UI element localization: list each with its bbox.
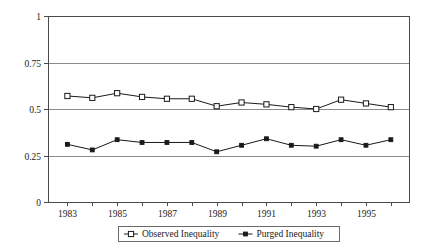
data-point-marker (165, 141, 169, 145)
data-point-marker (215, 150, 219, 154)
data-point-marker (389, 138, 393, 142)
y-tick-label: 1 (36, 12, 41, 22)
legend-marker (128, 231, 133, 236)
data-point-marker (66, 142, 70, 146)
data-point-marker (140, 141, 144, 145)
data-point-marker (338, 97, 343, 102)
data-point-marker (240, 143, 244, 147)
legend-item-label: Observed Inequality (142, 229, 220, 239)
data-point-marker (164, 96, 169, 101)
chart-legend: Observed InequalityPurged Inequality (119, 227, 340, 242)
y-tick-label: 0 (36, 198, 41, 208)
data-point-marker (90, 95, 95, 100)
data-point-marker (214, 104, 219, 109)
data-point-marker (339, 138, 343, 142)
data-point-marker (289, 143, 293, 147)
data-point-marker (314, 144, 318, 148)
data-point-marker (190, 141, 194, 145)
data-point-marker (65, 93, 70, 98)
y-tick-label: 0.75 (24, 59, 41, 69)
data-point-marker (139, 94, 144, 99)
x-tick-label: 1987 (158, 209, 177, 219)
x-tick-label: 1995 (357, 209, 376, 219)
data-point-marker (289, 105, 294, 110)
x-axis-ticks: 1983198519871989199119931995 (58, 202, 392, 219)
data-point-marker (364, 143, 368, 147)
x-tick-label: 1983 (58, 209, 77, 219)
x-tick-label: 1989 (208, 209, 227, 219)
y-axis-ticks: 00.250.50.751 (24, 12, 48, 208)
data-point-marker (115, 138, 119, 142)
data-point-marker (363, 101, 368, 106)
data-point-marker (314, 106, 319, 111)
x-tick-label: 1993 (307, 209, 326, 219)
data-point-marker (239, 100, 244, 105)
y-tick-label: 0.25 (24, 152, 41, 162)
data-point-marker (388, 105, 393, 110)
chart-container: 00.250.50.751 19831985198719891991199319… (0, 0, 428, 251)
data-point-marker (115, 91, 120, 96)
data-point-marker (90, 148, 94, 152)
data-point-marker (265, 137, 269, 141)
x-tick-label: 1991 (257, 209, 276, 219)
y-tick-label: 0.5 (29, 105, 41, 115)
legend-item-label: Purged Inequality (256, 229, 324, 239)
legend-marker (244, 232, 248, 236)
data-point-marker (189, 96, 194, 101)
x-tick-label: 1985 (108, 209, 127, 219)
data-point-marker (264, 102, 269, 107)
inequality-line-chart: 00.250.50.751 19831985198719891991199319… (0, 0, 428, 251)
